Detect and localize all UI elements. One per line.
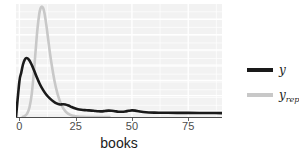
x-axis-tick-label: 0 xyxy=(6,120,32,133)
legend-entry-y[interactable]: y xyxy=(243,59,299,81)
legend-label-y-text: y xyxy=(279,63,286,77)
legend: y yrep xyxy=(243,45,299,107)
legend-key-yrep xyxy=(245,84,275,106)
x-axis-tick-label: 25 xyxy=(63,120,89,133)
legend-label-yrep-sub: rep xyxy=(286,95,299,104)
legend-key-y xyxy=(245,59,275,81)
legend-label-yrep-text: y xyxy=(279,88,286,102)
density-curve-y xyxy=(16,58,222,117)
legend-label-y: y xyxy=(279,62,286,78)
x-axis-tick-label: 75 xyxy=(175,120,201,133)
posterior-predictive-density-plot: 0255075 books y yrep xyxy=(0,0,299,157)
curve-group xyxy=(16,6,222,117)
plot-panel xyxy=(16,4,222,117)
density-curve-y-rep xyxy=(23,6,110,117)
legend-label-y-rep: yrep xyxy=(279,87,299,108)
x-axis-tick-label: 50 xyxy=(119,120,145,133)
x-axis-line xyxy=(16,117,222,118)
x-axis-title: books xyxy=(0,135,238,151)
density-curves xyxy=(16,4,222,117)
legend-entry-y-rep[interactable]: yrep xyxy=(243,84,299,106)
